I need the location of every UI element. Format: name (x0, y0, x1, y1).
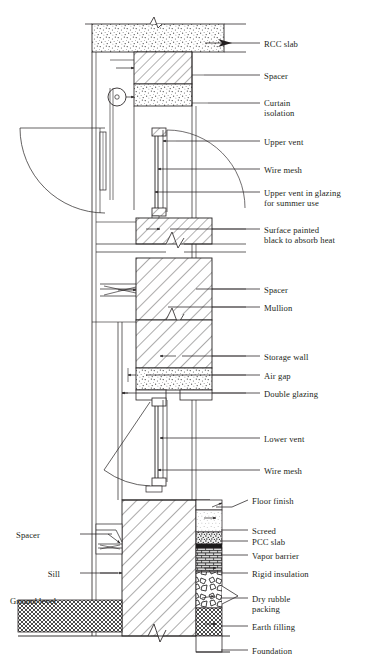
label-lower-vent: Lower vent (264, 434, 304, 444)
label-rcc-slab: RCC slab (264, 39, 298, 49)
spacer-top-element (110, 52, 204, 84)
mullion-spacer-element (100, 258, 246, 324)
label-vapor-barrier: Vapor barrier (252, 551, 299, 561)
label-spacer-top: Spacer (264, 71, 288, 81)
label-foundation: Foundation (252, 646, 292, 656)
label-surface-painted: Surface painted black to absorb heat (264, 225, 335, 245)
label-wire-mesh-upper: Wire mesh (264, 165, 302, 175)
label-rigid-insulation: Rigid insulation (252, 569, 309, 579)
label-mullion: Mullion (264, 303, 292, 313)
drawing-sheet: RCC slabSpacerCurtain isolationUpper ven… (0, 0, 371, 665)
label-upper-vent: Upper vent (264, 137, 303, 147)
label-upper-vent-glazing: Upper vent in glazing for summer use (264, 188, 341, 208)
label-curtain-isolation: Curtain isolation (264, 98, 295, 118)
label-floor-finish: Floor finish (252, 496, 294, 506)
label-double-glazing: Double glazing (264, 389, 318, 399)
label-earth-filling: Earth filling (252, 622, 295, 632)
label-ground-level: Ground level (10, 596, 56, 606)
label-screed: Screed (252, 526, 276, 536)
curtain-swing-arc (20, 128, 106, 213)
label-spacer-mid: Spacer (264, 285, 288, 295)
upper-vent-glazing-panel (152, 128, 245, 221)
label-dry-rubble-packing: Dry rubble packing (252, 594, 290, 614)
rcc-slab-element (85, 17, 246, 52)
label-spacer-sill: Spacer (16, 530, 40, 540)
surface-painted-black-element (96, 218, 246, 252)
label-pcc-slab: PCC slab (252, 537, 285, 547)
label-sill: Sill (48, 569, 60, 579)
section-drawing (0, 0, 371, 665)
label-air-gap: Air gap (264, 371, 291, 381)
label-wire-mesh-lower: Wire mesh (264, 466, 302, 476)
label-storage-wall: Storage wall (264, 352, 308, 362)
